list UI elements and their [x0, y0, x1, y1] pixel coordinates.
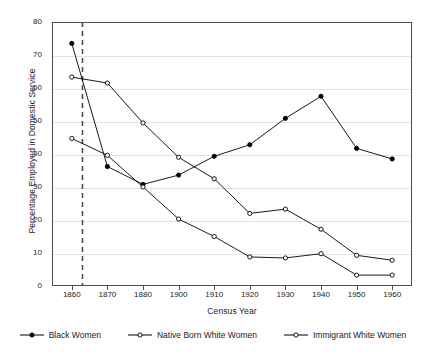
- data-point-marker: [105, 164, 109, 168]
- series-line: [72, 43, 392, 184]
- legend-label: Immigrant White Women: [313, 330, 406, 340]
- legend-marker-icon: [19, 330, 45, 340]
- data-point-marker: [70, 41, 74, 45]
- data-point-marker: [212, 177, 216, 181]
- y-tick-label: 70: [0, 51, 42, 59]
- legend-marker-icon: [283, 330, 309, 340]
- line-chart: Percentage Employed in Domestic Service …: [0, 0, 425, 355]
- series-line: [72, 138, 392, 275]
- data-point-marker: [177, 155, 181, 159]
- data-point-marker: [70, 75, 74, 79]
- x-tick-label: 1960: [370, 291, 414, 299]
- series-line: [72, 77, 392, 260]
- legend-marker-icon: [127, 330, 153, 340]
- data-point-marker: [283, 256, 287, 260]
- x-tick-mark: [285, 286, 286, 290]
- x-axis-title: Census Year: [52, 306, 412, 316]
- x-tick-mark: [392, 286, 393, 290]
- data-point-marker: [319, 227, 323, 231]
- x-tick-mark: [107, 286, 108, 290]
- y-tick-label: 40: [0, 150, 42, 158]
- data-point-marker: [177, 173, 181, 177]
- data-point-marker: [70, 136, 74, 140]
- x-tick-mark: [250, 286, 251, 290]
- data-point-marker: [390, 273, 394, 277]
- x-tick-mark: [179, 286, 180, 290]
- x-tick-mark: [321, 286, 322, 290]
- data-point-marker: [141, 121, 145, 125]
- legend-item-2[interactable]: Native Born White Women: [127, 330, 257, 340]
- x-tick-mark: [72, 286, 73, 290]
- x-tick-mark: [214, 286, 215, 290]
- data-point-marker: [248, 255, 252, 259]
- data-point-marker: [212, 234, 216, 238]
- y-tick-label: 60: [0, 84, 42, 92]
- data-point-marker: [177, 217, 181, 221]
- legend-label: Black Women: [49, 330, 101, 340]
- y-tick-label: 10: [0, 249, 42, 257]
- legend-label: Native Born White Women: [157, 330, 257, 340]
- chart-legend: Black WomenNative Born White WomenImmigr…: [0, 330, 425, 340]
- y-tick-label: 50: [0, 117, 42, 125]
- series-layer: [52, 22, 412, 286]
- legend-item-3[interactable]: Immigrant White Women: [283, 330, 406, 340]
- data-point-marker: [105, 81, 109, 85]
- data-point-marker: [319, 252, 323, 256]
- data-point-marker: [355, 253, 359, 257]
- data-point-marker: [283, 207, 287, 211]
- data-point-marker: [283, 116, 287, 120]
- data-point-marker: [355, 273, 359, 277]
- y-tick-label: 80: [0, 18, 42, 26]
- x-tick-mark: [143, 286, 144, 290]
- data-point-marker: [212, 154, 216, 158]
- y-tick-label: 20: [0, 216, 42, 224]
- data-point-marker: [105, 153, 109, 157]
- x-tick-mark: [357, 286, 358, 290]
- data-point-marker: [390, 258, 394, 262]
- legend-item-1[interactable]: Black Women: [19, 330, 101, 340]
- y-tick-label: 0: [0, 282, 42, 290]
- data-point-marker: [248, 143, 252, 147]
- y-tick-label: 30: [0, 183, 42, 191]
- series-2: [70, 136, 395, 277]
- series-3: [70, 75, 395, 262]
- data-point-marker: [390, 157, 394, 161]
- data-point-marker: [141, 185, 145, 189]
- data-point-marker: [319, 94, 323, 98]
- data-point-marker: [248, 211, 252, 215]
- data-point-marker: [355, 146, 359, 150]
